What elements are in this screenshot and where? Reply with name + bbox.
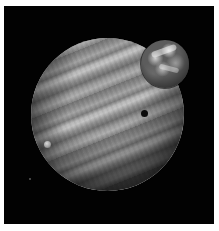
distant-star	[29, 178, 31, 180]
moon-shadow-dot	[141, 110, 148, 117]
space-scene-image	[4, 6, 214, 224]
earth-like-moon	[141, 40, 189, 88]
small-moon	[44, 141, 51, 148]
moon-terminator-shadow	[141, 40, 189, 88]
